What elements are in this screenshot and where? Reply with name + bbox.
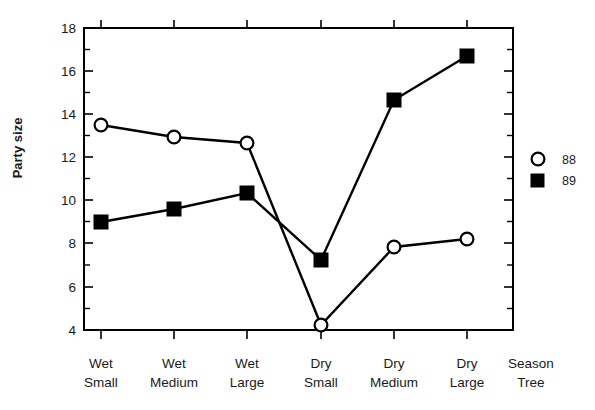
y-tick-label: 12 <box>61 150 76 165</box>
y-tick-label: 10 <box>61 193 76 208</box>
x-category-labels: Wet Small Wet Medium Wet Large Dry Small… <box>84 356 484 390</box>
x-axis-title-line1: Season <box>508 356 554 371</box>
line-chart: 18 16 14 12 10 8 6 4 Party size <box>0 0 595 410</box>
x-axis-title-line2: Tree <box>517 375 544 390</box>
y-tick-label: 4 <box>68 323 76 338</box>
plot-frame <box>84 28 513 330</box>
x-category-label-line2: Medium <box>150 375 198 390</box>
x-category-label-line2: Large <box>450 375 485 390</box>
x-axis-top-ticks <box>101 20 467 28</box>
filled-square-icon <box>531 174 544 187</box>
x-category-label-line1: Wet <box>162 356 186 371</box>
x-category-label-line1: Dry <box>457 356 478 371</box>
x-axis-title: Season Tree <box>508 356 554 390</box>
y-axis-title: Party size <box>10 118 25 179</box>
x-category-label-line1: Dry <box>311 356 332 371</box>
x-axis-ticks <box>101 330 467 339</box>
y-tick-label: 6 <box>68 280 76 295</box>
x-category-label-line1: Dry <box>384 356 405 371</box>
y-axis-ticks <box>84 28 93 330</box>
y-tick-label: 14 <box>61 107 77 122</box>
chart-legend: 88 89 <box>531 153 576 188</box>
y-axis-right-ticks <box>504 28 513 330</box>
legend-label-88: 88 <box>562 153 576 167</box>
y-tick-label: 8 <box>68 236 76 251</box>
x-category-label-line2: Small <box>304 375 338 390</box>
y-tick-labels: 18 16 14 12 10 8 6 4 <box>61 21 77 338</box>
y-tick-label: 18 <box>61 21 76 36</box>
x-category-label-line2: Small <box>84 375 118 390</box>
x-category-label-line2: Large <box>230 375 265 390</box>
y-tick-label: 16 <box>61 64 76 79</box>
open-circle-icon <box>532 153 545 166</box>
x-category-label-line2: Medium <box>370 375 418 390</box>
series-line-89 <box>101 56 467 260</box>
x-category-label-line1: Wet <box>89 356 113 371</box>
chart-page: 18 16 14 12 10 8 6 4 Party size <box>0 0 595 410</box>
x-category-label-line1: Wet <box>235 356 259 371</box>
legend-label-89: 89 <box>562 174 576 188</box>
